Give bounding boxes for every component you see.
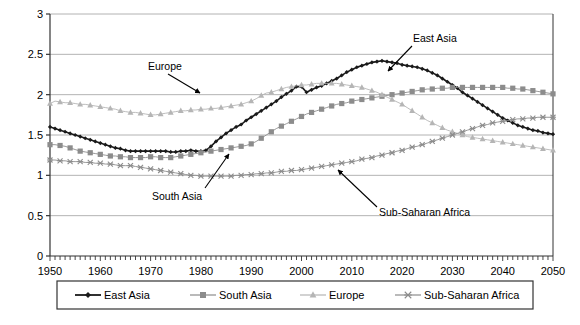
marker-asterisk (158, 168, 164, 173)
x-axis-tick-label: 1980 (189, 265, 213, 277)
annotations-layer: EuropeEast AsiaSouth AsiaSub-Saharan Afr… (148, 32, 470, 218)
marker-square (178, 153, 183, 158)
marker-asterisk (188, 173, 194, 178)
marker-diamond (73, 133, 77, 137)
marker-asterisk (57, 158, 63, 163)
marker-asterisk (299, 167, 305, 172)
y-axis-tick-label: 0.5 (28, 210, 43, 222)
marker-asterisk (228, 174, 234, 179)
marker-square (198, 150, 203, 155)
marker-triangle (419, 114, 425, 119)
marker-asterisk (359, 157, 365, 162)
marker-triangle (47, 100, 53, 105)
marker-diamond (194, 149, 198, 153)
marker-triangle (208, 105, 214, 110)
marker-asterisk (138, 165, 144, 170)
marker-diamond (138, 149, 142, 153)
marker-diamond (149, 149, 153, 153)
marker-square (550, 91, 555, 96)
marker-triangle (188, 107, 194, 112)
marker-square (138, 155, 143, 160)
marker-square (440, 86, 445, 91)
marker-square (88, 150, 93, 155)
marker-asterisk (107, 162, 113, 167)
marker-asterisk (369, 155, 375, 160)
marker-square (279, 124, 284, 129)
legend-label: Europe (329, 289, 364, 301)
marker-diamond (63, 130, 67, 134)
marker-triangle (299, 82, 305, 87)
marker-asterisk (77, 159, 83, 164)
marker-diamond (375, 59, 379, 63)
marker-diamond (113, 146, 117, 150)
annotation-arrow (168, 74, 200, 93)
marker-triangle (67, 100, 73, 105)
marker-asterisk (168, 170, 174, 175)
marker-asterisk (87, 160, 93, 165)
marker-asterisk (309, 166, 315, 171)
legend-label: South Asia (219, 289, 272, 301)
marker-asterisk (248, 172, 254, 177)
marker-square (118, 154, 123, 159)
marker-diamond (536, 129, 540, 133)
marker-diamond (400, 63, 404, 67)
marker-square (218, 147, 223, 152)
marker-asterisk (349, 159, 355, 164)
y-axis-tick-label: 2 (37, 89, 43, 101)
marker-triangle (248, 98, 254, 103)
x-axis-tick-label: 2010 (340, 265, 364, 277)
marker-diamond (521, 125, 525, 129)
marker-asterisk (389, 150, 395, 155)
annotation-label: Sub-Saharan Africa (379, 206, 470, 218)
series-south-asia (47, 85, 555, 160)
marker-square (98, 152, 103, 157)
x-axis-tick-label: 1990 (239, 265, 263, 277)
y-axis-tick-label: 1 (37, 169, 43, 181)
marker-diamond (184, 149, 188, 153)
legend-label: Sub-Saharan Africa (424, 289, 520, 301)
marker-asterisk (530, 116, 536, 121)
annotation-arrow (205, 154, 229, 188)
marker-triangle (409, 108, 415, 113)
marker-diamond (159, 149, 163, 153)
marker-square (490, 85, 495, 90)
marker-square (480, 85, 485, 90)
x-axis: 1950196019701980199020002010202020302040… (38, 256, 565, 277)
marker-asterisk (128, 163, 134, 168)
fertility-rate-line-chart: 00.511.522.53 19501960197019801990200020… (0, 0, 580, 325)
marker-diamond (48, 125, 52, 129)
series-line (50, 87, 553, 157)
marker-square (329, 103, 334, 108)
marker-diamond (365, 62, 369, 66)
marker-diamond (385, 59, 389, 63)
y-axis: 00.511.522.53 (28, 8, 50, 262)
marker-asterisk (329, 162, 335, 167)
marker-square (369, 95, 374, 100)
x-axis-tick-label: 2030 (440, 265, 464, 277)
marker-square (530, 88, 535, 93)
marker-square (148, 154, 153, 159)
marker-diamond (108, 144, 112, 148)
marker-square (188, 152, 193, 157)
marker-diamond (118, 147, 122, 151)
y-axis-tick-label: 3 (37, 8, 43, 20)
marker-square (168, 155, 173, 160)
marker-square (128, 155, 133, 160)
marker-diamond (128, 149, 132, 153)
marker-diamond (83, 136, 87, 140)
marker-square (228, 145, 233, 150)
marker-diamond (531, 128, 535, 132)
marker-asterisk (439, 136, 445, 141)
annotation-arrow (388, 46, 412, 71)
marker-asterisk (198, 174, 204, 179)
marker-triangle (178, 108, 184, 113)
x-axis-tick-label: 2050 (541, 265, 565, 277)
marker-asterisk (480, 123, 486, 128)
marker-square (47, 142, 52, 147)
marker-square (299, 114, 304, 119)
marker-square (430, 86, 435, 91)
marker-diamond (58, 128, 62, 132)
y-axis-tick-label: 2.5 (28, 48, 43, 60)
x-axis-tick-label: 2040 (490, 265, 514, 277)
marker-diamond (133, 149, 137, 153)
